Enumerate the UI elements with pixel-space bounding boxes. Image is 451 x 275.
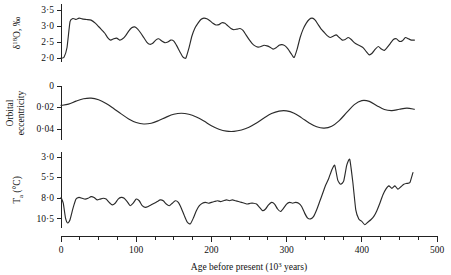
curve-orbital-eccentricity <box>61 98 414 131</box>
y-tick-label-air-temperature-3: 10·5 <box>37 214 55 224</box>
y-axis-title-eccentricity-line1: Orbital <box>5 99 15 126</box>
y-tick-label-orbital-eccentricity-1: 0·02 <box>37 102 55 112</box>
y-tick-label-delta-o18-1: 2·5 <box>41 37 54 47</box>
x-tick-label-1: 100 <box>129 245 144 255</box>
x-tick-label-3: 300 <box>279 245 294 255</box>
panel-orbital-eccentricity: 00·020·04 <box>37 81 415 140</box>
x-tick-label-5: 500 <box>430 245 445 255</box>
x-tick-label-4: 400 <box>355 245 370 255</box>
panel-delta-o18: 2·02·53·03·5 <box>41 4 414 63</box>
y-tick-label-delta-o18-3: 3·5 <box>41 5 54 15</box>
y-axis-title-eccentricity-line2: eccentricity <box>16 91 26 136</box>
y-tick-label-delta-o18-0: 2·0 <box>41 53 54 63</box>
chart-svg: 2·02·53·03·500·020·043·05·58·010·5010020… <box>0 0 451 275</box>
y-tick-label-air-temperature-2: 8·0 <box>41 193 54 203</box>
y-tick-label-air-temperature-0: 3·0 <box>41 152 54 162</box>
y-tick-label-orbital-eccentricity-0: 0 <box>49 81 54 91</box>
x-tick-label-2: 200 <box>204 245 219 255</box>
y-axis-title-air-temperature: Ta (°C) <box>12 176 24 204</box>
curve-delta-o18 <box>61 18 414 58</box>
curve-air-temperature <box>61 159 413 225</box>
x-axis-title: Age before present (103 years) <box>191 261 307 273</box>
x-tick-label-0: 0 <box>59 245 64 255</box>
y-tick-label-air-temperature-1: 5·5 <box>41 172 54 182</box>
y-axis-title-delta-o18: δ18O, ‰ <box>11 16 22 49</box>
panel-air-temperature: 3·05·58·010·5 <box>37 152 413 228</box>
y-tick-label-orbital-eccentricity-2: 0·04 <box>37 124 55 134</box>
y-tick-label-delta-o18-2: 3·0 <box>41 21 54 31</box>
figure-container: 2·02·53·03·500·020·043·05·58·010·5010020… <box>0 0 451 275</box>
